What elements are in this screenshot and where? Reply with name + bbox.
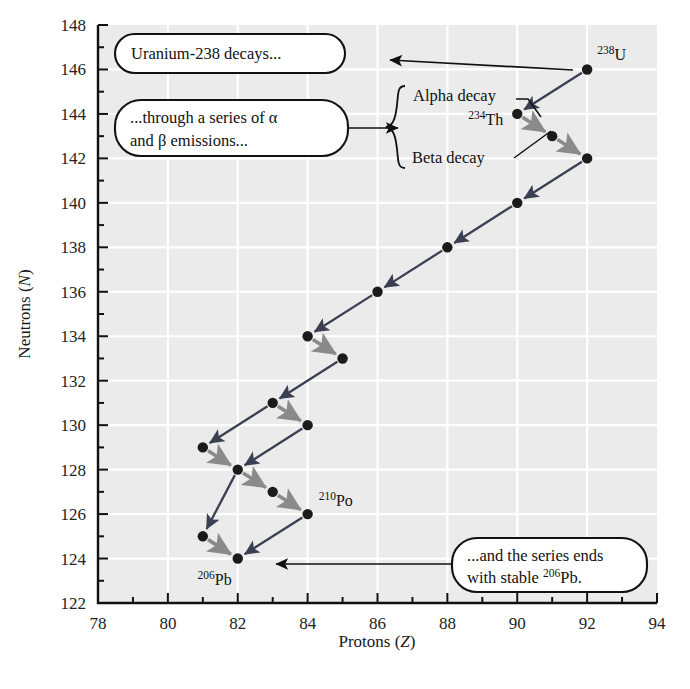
x-tick-label: 84 — [299, 614, 317, 633]
x-tick-label: 94 — [649, 614, 667, 633]
y-tick-label: 136 — [61, 283, 87, 302]
nuclide-point-Po218 — [302, 331, 312, 341]
callout-series-emissions-line1: ...through a series of α — [130, 108, 278, 127]
beta-decay-label: Beta decay — [412, 148, 486, 167]
y-tick-label: 138 — [61, 238, 87, 257]
x-tick-label: 86 — [369, 614, 386, 633]
x-tick-label: 92 — [579, 614, 596, 633]
callout-series-ends-line2: with stable 206Pb. — [467, 567, 582, 587]
nuclide-point-Bi214 — [267, 398, 277, 408]
callout-uranium-decays-text: Uranium-238 decays... — [131, 44, 281, 63]
x-tick-label: 80 — [159, 614, 176, 633]
nuclide-point-Po210 — [302, 509, 312, 519]
x-axis-title: Protons (Z) — [338, 632, 415, 651]
y-tick-label: 124 — [61, 550, 87, 569]
y-tick-label: 144 — [61, 105, 87, 124]
callout-series-emissions-line2: and β emissions... — [130, 131, 248, 150]
y-axis-title: Neutrons (N) — [15, 269, 34, 358]
y-tick-label: 146 — [61, 60, 87, 79]
nuclide-point-Tl210 — [198, 442, 208, 452]
figure-uranium-238-decay-series: 238U234Th210Po206Pb 788082848688909294 1… — [0, 0, 690, 689]
y-tick-label: 142 — [61, 149, 87, 168]
nuclide-point-Ra226 — [442, 242, 452, 252]
nuclide-point-Pb210 — [233, 464, 243, 474]
y-tick-label: 148 — [61, 16, 87, 35]
nuclide-point-Po214 — [302, 420, 312, 430]
alpha-decay-label: Alpha decay — [413, 86, 497, 105]
x-tick-label: 78 — [90, 614, 107, 633]
y-tick-label: 126 — [61, 505, 87, 524]
nuclide-point-At218 — [337, 353, 347, 363]
y-tick-label: 140 — [61, 194, 87, 213]
nuclide-point-U238 — [582, 64, 592, 74]
y-tick-label: 122 — [61, 594, 87, 613]
nuclide-point-Th234 — [512, 109, 522, 119]
y-tick-label: 128 — [61, 461, 87, 480]
nuclide-point-Pb206 — [233, 553, 243, 563]
y-tick-label: 134 — [61, 327, 87, 346]
nuclide-point-Th230 — [512, 198, 522, 208]
y-tick-label: 130 — [61, 416, 87, 435]
callout-series-ends-line1: ...and the series ends — [467, 546, 604, 565]
nuclide-point-U234 — [582, 153, 592, 163]
x-tick-label: 90 — [509, 614, 526, 633]
decay-series-chart: 238U234Th210Po206Pb 788082848688909294 1… — [0, 0, 690, 689]
nuclide-point-Bi210 — [267, 487, 277, 497]
x-tick-label: 82 — [229, 614, 246, 633]
y-tick-label: 132 — [61, 372, 87, 391]
nuclide-point-Tl206 — [198, 531, 208, 541]
y-axis-tick-labels: 1221241261281301321341361381401421441461… — [61, 16, 87, 613]
nuclide-point-Rn222 — [372, 287, 382, 297]
x-axis-tick-labels: 788082848688909294 — [90, 614, 667, 633]
x-tick-label: 88 — [439, 614, 456, 633]
